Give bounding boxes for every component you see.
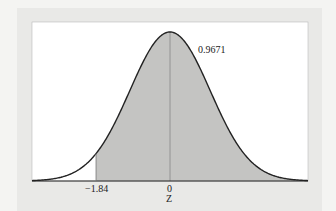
area-label: 0.9671 [198, 44, 226, 55]
normal-curve-chart [0, 0, 336, 211]
axis-label: Z [166, 193, 172, 204]
tick-label-left: −1.84 [85, 183, 108, 194]
